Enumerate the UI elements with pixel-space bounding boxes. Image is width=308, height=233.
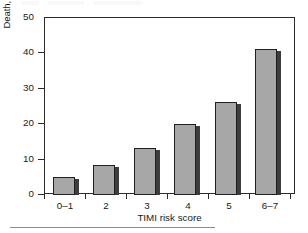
bar-1 — [93, 165, 115, 195]
y-tick-label-30: 30 — [8, 83, 34, 93]
x-tick-label-0: 0–1 — [43, 200, 87, 212]
x-tick-label-3: 4 — [166, 200, 210, 212]
x-tick-mark-start — [44, 194, 45, 199]
y-tick-label-20: 20 — [8, 118, 34, 128]
x-tick-mark-5 — [249, 194, 250, 199]
x-tick-label-2: 3 — [125, 200, 169, 212]
y-tick-label-40: 40 — [8, 47, 34, 57]
x-tick-label-4: 5 — [207, 200, 251, 212]
x-tick-label-5: 6–7 — [248, 200, 292, 212]
x-tick-mark-4 — [208, 194, 209, 199]
y-tick-label-0: 0 — [8, 189, 34, 199]
bar-3 — [174, 124, 196, 195]
scan-artifact — [22, 1, 142, 5]
x-tick-mark-end — [290, 194, 291, 199]
x-tick-mark-3 — [167, 194, 168, 199]
y-axis-title: Death, MI, or revascularization (%) — [0, 0, 14, 45]
y-tick-label-10: 10 — [8, 154, 34, 164]
x-axis-title: TIMI risk score — [44, 212, 295, 224]
bar-0 — [53, 177, 75, 195]
x-tick-label-1: 2 — [84, 200, 128, 212]
x-tick-mark-2 — [126, 194, 127, 199]
bar-5 — [255, 49, 277, 195]
y-tick-label-50: 50 — [8, 12, 34, 22]
bar-4 — [215, 102, 237, 195]
x-tick-mark-1 — [85, 194, 86, 199]
bottom-divider — [10, 227, 215, 228]
figure-panel: Death, MI, or revascularization (%) 50 4… — [0, 0, 308, 233]
bar-2 — [134, 148, 156, 195]
